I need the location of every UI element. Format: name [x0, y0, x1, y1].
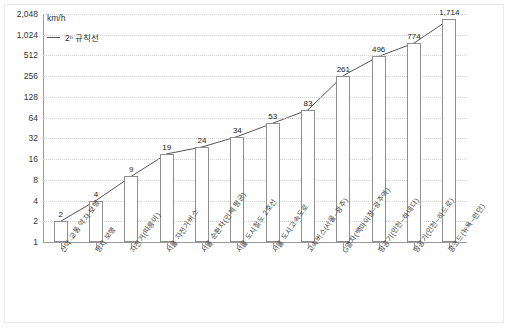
legend-line-swatch: [47, 37, 60, 38]
bar-value-label: 1,714: [427, 8, 471, 17]
bar-value-label: 9: [109, 165, 153, 174]
bar-value-label: 261: [321, 65, 365, 74]
y-axis-tick-label: 512: [24, 51, 38, 60]
gridline: [43, 14, 467, 15]
gridline: [43, 97, 467, 98]
bar-value-label: 774: [392, 32, 436, 41]
bar-value-label: 53: [251, 112, 295, 121]
y-axis-tick-label: 1,024: [17, 31, 38, 40]
bar-value-label: 34: [215, 126, 259, 135]
bar-value-label: 4: [74, 190, 118, 199]
y-axis-tick-label: 1: [33, 238, 38, 247]
y-axis-tick-label: 128: [24, 93, 38, 102]
bar[interactable]: [266, 123, 280, 242]
legend-label: 2ⁿ 규칙선: [65, 31, 99, 43]
gridline: [43, 201, 467, 202]
y-axis-tick-label: 256: [24, 72, 38, 81]
bar-value-label: 24: [180, 136, 224, 145]
chart-container: 2,0481,0245122561286432168421 2491924345…: [0, 0, 509, 328]
bar[interactable]: [160, 154, 174, 242]
y-axis-tick-label: 64: [29, 114, 38, 123]
gridline: [43, 180, 467, 181]
legend-entry-2n-rule: 2ⁿ 규칙선: [47, 31, 99, 43]
y-axis-tick-label: 4: [33, 197, 38, 206]
bar[interactable]: [230, 137, 244, 242]
bar-value-label: 83: [286, 99, 330, 108]
y-axis-tick-label: 8: [33, 176, 38, 185]
bar[interactable]: [195, 147, 209, 242]
gridline: [43, 159, 467, 160]
y-axis-tick-label: 2,048: [17, 10, 38, 19]
y-axis-tick-label: 16: [29, 155, 38, 164]
gridline: [43, 138, 467, 139]
y-axis-tick-label: 32: [29, 134, 38, 143]
y-axis-tick-label: 2: [33, 217, 38, 226]
y-axis-unit-label: km/h: [47, 13, 65, 23]
bar-value-label: 2: [39, 210, 83, 219]
gridline: [43, 55, 467, 56]
bar[interactable]: [124, 176, 138, 242]
bar-value-label: 496: [357, 45, 401, 54]
gridline: [43, 76, 467, 77]
plot-area: 24919243453832614967741,714: [43, 14, 467, 242]
bar[interactable]: [301, 110, 315, 242]
y-axis-tick-labels: 2,0481,0245122561286432168421: [0, 0, 38, 328]
